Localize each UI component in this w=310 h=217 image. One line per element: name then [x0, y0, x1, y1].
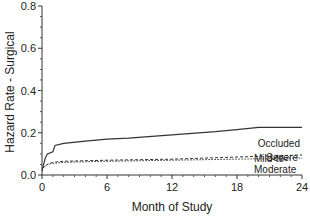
x-tick-label: 6	[104, 181, 110, 193]
label-mild: Mild-to-	[254, 153, 287, 164]
y-axis-title: Hazard Rate - Surgical	[3, 31, 17, 152]
x-axis-title: Month of Study	[132, 200, 213, 214]
y-tick-label: 0.4	[21, 85, 36, 97]
label-moderate: Moderate	[254, 164, 297, 175]
y-tick-label: 0.6	[21, 42, 36, 54]
y-tick-label: 0.0	[21, 169, 36, 181]
label-occluded: Occluded	[258, 138, 300, 149]
x-tick-label: 18	[231, 181, 243, 193]
y-tick-label: 0.8	[21, 0, 36, 12]
x-tick-label: 0	[39, 181, 45, 193]
hazard-rate-chart: 0.00.20.40.60.806121824 Month of Study H…	[0, 0, 310, 217]
x-tick-label: 24	[296, 181, 308, 193]
y-tick-label: 0.2	[21, 127, 36, 139]
x-tick-label: 12	[166, 181, 178, 193]
